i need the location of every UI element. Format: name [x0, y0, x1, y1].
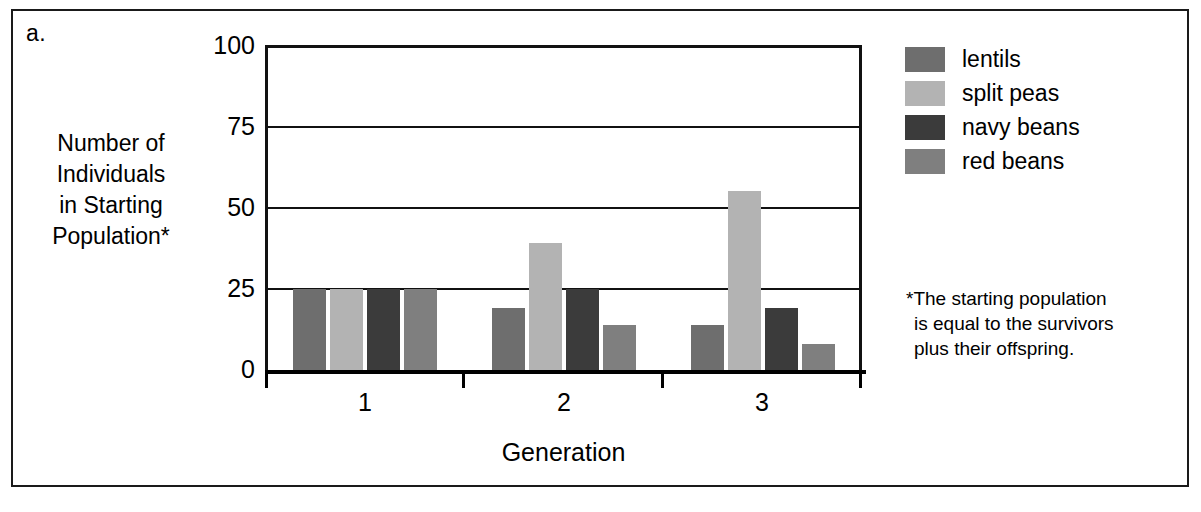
- legend-swatch-lentils: [905, 47, 945, 72]
- legend-label-split-peas: split peas: [962, 82, 1059, 105]
- x-tick-1: [462, 374, 465, 388]
- figure-panel: a. Number of Individuals in Starting Pop…: [0, 0, 1201, 512]
- legend-label-lentils: lentils: [962, 48, 1021, 71]
- footnote: *The starting population is equal to the…: [906, 286, 1176, 361]
- legend-label-red-beans: red beans: [962, 150, 1064, 173]
- footnote-line-2: is equal to the survivors: [906, 311, 1176, 336]
- legend-item-split-peas[interactable]: split peas: [905, 78, 1080, 109]
- bar-gen1-navy-beans: [367, 289, 400, 370]
- bar-gen1-lentils: [293, 289, 326, 370]
- legend-item-navy-beans[interactable]: navy beans: [905, 112, 1080, 143]
- bar-gen2-red-beans: [603, 325, 636, 371]
- x-tick-2: [661, 374, 664, 388]
- y-axis-title-line-3: in Starting: [18, 190, 204, 221]
- footnote-line-1: *The starting population: [906, 286, 1176, 311]
- bar-gen3-lentils: [691, 325, 724, 371]
- bar-gen3-split-peas: [728, 191, 761, 370]
- legend-swatch-navy-beans: [905, 115, 945, 140]
- bar-gen2-navy-beans: [566, 289, 599, 370]
- bar-gen1-red-beans: [404, 289, 437, 370]
- legend-label-navy-beans: navy beans: [962, 116, 1080, 139]
- bar-gen2-lentils: [492, 308, 525, 370]
- x-group-label-1: 1: [305, 390, 425, 415]
- y-tick-label-25: 25: [195, 276, 255, 301]
- y-tick-label-50: 50: [195, 195, 255, 220]
- x-tick-end: [859, 374, 862, 388]
- bar-gen3-red-beans: [802, 344, 835, 370]
- legend-swatch-red-beans: [905, 149, 945, 174]
- y-tick-label-75: 75: [195, 114, 255, 139]
- bars-layer: [265, 45, 862, 370]
- y-tick-label-0: 0: [195, 357, 255, 382]
- legend: lentils split peas navy beans red beans: [905, 44, 1080, 180]
- bar-gen1-split-peas: [330, 289, 363, 370]
- x-tick-start: [265, 374, 268, 388]
- panel-letter: a.: [26, 22, 46, 45]
- y-tick-label-100: 100: [195, 33, 255, 58]
- legend-item-red-beans[interactable]: red beans: [905, 146, 1080, 177]
- bar-gen3-navy-beans: [765, 308, 798, 370]
- x-axis-title: Generation: [265, 440, 862, 465]
- x-group-label-3: 3: [702, 390, 822, 415]
- legend-item-lentils[interactable]: lentils: [905, 44, 1080, 75]
- y-axis-title-line-4: Population*: [18, 221, 204, 252]
- bar-gen2-split-peas: [529, 243, 562, 370]
- y-axis-title-line-1: Number of: [18, 128, 204, 159]
- footnote-line-3: plus their offspring.: [906, 336, 1176, 361]
- y-axis-title: Number of Individuals in Starting Popula…: [18, 128, 204, 252]
- y-axis-title-line-2: Individuals: [18, 159, 204, 190]
- x-axis-line: [265, 370, 866, 374]
- plot-area: [265, 45, 862, 370]
- legend-swatch-split-peas: [905, 81, 945, 106]
- x-group-label-2: 2: [504, 390, 624, 415]
